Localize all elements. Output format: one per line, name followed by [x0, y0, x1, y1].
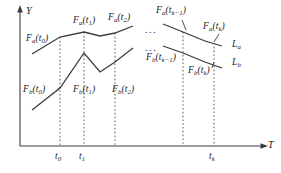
- fa-tk-arg-sub: k: [218, 25, 221, 32]
- curve-lb-segment-left: [32, 48, 133, 110]
- point-label-fb-t0: Fb(t0): [23, 85, 45, 95]
- y-axis-label: Y: [26, 6, 32, 16]
- fa-tk1-base-sub: a: [162, 9, 166, 16]
- fb-t2-base-sub: b: [118, 88, 122, 95]
- fa-t1-arg-sub: 1: [88, 19, 92, 26]
- point-label-fb-t2: Fb(t2): [112, 85, 134, 95]
- fa-t1-base-sub: a: [79, 19, 83, 26]
- fb-tk-arg-sub: k: [203, 69, 206, 76]
- tick-label-tk: tk: [209, 152, 215, 162]
- point-label-fa-tk: Fa(tk): [203, 22, 225, 32]
- fb-tk-base-sub: b: [194, 69, 198, 76]
- fb-tk1-arg-sub: k−1: [161, 56, 172, 63]
- x-axis-label: T: [268, 140, 274, 150]
- figure-container: Y T t0 t1 tk La Lb ... ... Fa(t0) Fa(t1)…: [0, 0, 281, 173]
- point-label-fa-tk1: Fa(tk−1): [156, 6, 186, 16]
- point-label-fb-t1: Fb(t1): [73, 85, 95, 95]
- fa-t2-arg-sub: 2: [123, 16, 127, 23]
- point-label-fa-t0: Fa(t0): [26, 34, 48, 44]
- fa-tk1-arg-sub: k−1: [171, 9, 182, 16]
- point-label-fa-t2: Fa(t2): [108, 13, 130, 23]
- curve-label-lb-sub: b: [237, 61, 241, 68]
- axes-group: [17, 5, 268, 149]
- leader-line-fa-tk: [214, 34, 219, 42]
- curve-lb: [32, 46, 222, 110]
- fa-t0-arg-sub: 0: [41, 37, 45, 44]
- tick-sub-tk: k: [212, 155, 215, 162]
- curve-label-la-sub: a: [237, 43, 241, 50]
- fa-t0-base-sub: a: [32, 37, 36, 44]
- leader-line-fa-tk1: [182, 20, 186, 30]
- curve-label-lb: Lb: [232, 58, 241, 68]
- y-axis-arrowhead: [17, 5, 23, 13]
- fb-t1-base-sub: b: [79, 88, 83, 95]
- tick-label-t0: t0: [55, 152, 61, 162]
- fa-tk-base-sub: a: [209, 25, 213, 32]
- x-axis-arrowhead: [261, 143, 269, 149]
- fb-tk1-base-sub: b: [152, 56, 156, 63]
- point-label-fb-tk1: Fb(tk−1): [146, 53, 176, 63]
- tick-sub-t0: 0: [58, 155, 62, 162]
- point-label-fb-tk: Fb(tk): [188, 66, 210, 76]
- curve-label-la: La: [232, 40, 241, 50]
- fb-t0-arg-sub: 0: [38, 88, 42, 95]
- tick-label-t1: t1: [79, 152, 85, 162]
- tick-sub-t1: 1: [82, 155, 86, 162]
- point-label-fa-t1: Fa(t1): [73, 16, 95, 26]
- fb-t1-arg-sub: 1: [88, 88, 92, 95]
- leader-line-fb-t0: [53, 87, 60, 94]
- fb-t2-arg-sub: 2: [127, 88, 131, 95]
- upper-ellipsis: ...: [145, 25, 157, 35]
- fa-t2-base-sub: a: [114, 16, 118, 23]
- fb-t0-base-sub: b: [29, 88, 33, 95]
